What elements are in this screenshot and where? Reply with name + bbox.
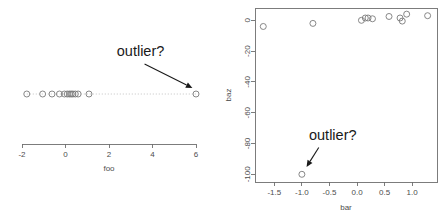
- x-tick-label: -0.5: [323, 188, 337, 197]
- x-tick-label: 0: [63, 150, 68, 159]
- y-tick-label: -100: [243, 166, 252, 183]
- x-tick-label: -2: [18, 150, 26, 159]
- data-point: [260, 23, 266, 29]
- y-tick-label: -40: [243, 76, 252, 88]
- data-point: [193, 91, 199, 97]
- right-x-ticks: [274, 182, 412, 186]
- figure-root: -20246 foo outlier? -1.5-1.0-0.50.00.51.…: [0, 0, 446, 224]
- left-outlier-annotation: outlier?: [117, 43, 193, 88]
- right-plot-frame: [255, 8, 437, 182]
- right-x-axis-title: bar: [340, 203, 352, 212]
- y-tick-label: 0: [243, 18, 252, 23]
- x-tick-label: -1.5: [267, 188, 281, 197]
- right-annotation-arrow: [310, 147, 319, 161]
- right-x-tick-labels: -1.5-1.0-0.50.00.51.0: [267, 188, 418, 197]
- left-x-ticks: [22, 144, 196, 148]
- plot-panel-right: -1.5-1.0-0.50.00.51.0 0-20-40-60-80-100 …: [223, 0, 446, 224]
- left-x-tick-labels: -20246: [18, 150, 198, 159]
- left-annotation-label: outlier?: [117, 43, 165, 59]
- data-point: [386, 13, 392, 19]
- right-plot-svg: -1.5-1.0-0.50.00.51.0 0-20-40-60-80-100 …: [223, 0, 446, 224]
- right-annotation-label: outlier?: [309, 127, 357, 143]
- right-y-tick-labels: 0-20-40-60-80-100: [243, 18, 252, 183]
- plot-panel-left: -20246 foo outlier?: [0, 0, 223, 224]
- x-tick-label: 6: [194, 150, 199, 159]
- data-point: [425, 13, 431, 19]
- data-point: [310, 20, 316, 26]
- data-point: [299, 171, 305, 177]
- left-plot-svg: -20246 foo outlier?: [0, 0, 223, 224]
- right-data-points: [260, 11, 430, 177]
- right-annotation-arrowhead: [307, 160, 313, 167]
- x-tick-label: 4: [150, 150, 155, 159]
- x-tick-label: -1.0: [295, 188, 309, 197]
- y-tick-label: -60: [243, 106, 252, 118]
- left-x-axis-title: foo: [103, 164, 115, 173]
- y-tick-label: -20: [243, 45, 252, 57]
- right-y-axis-title: baz: [224, 89, 233, 102]
- x-tick-label: 0.0: [351, 188, 363, 197]
- x-tick-label: 1.0: [407, 188, 419, 197]
- y-tick-label: -80: [243, 137, 252, 149]
- right-outlier-annotation: outlier?: [307, 127, 357, 166]
- left-x-axis: -20246: [18, 144, 198, 159]
- right-x-axis: -1.5-1.0-0.50.00.51.0: [267, 182, 418, 197]
- data-point: [369, 16, 375, 22]
- right-y-axis: 0-20-40-60-80-100: [243, 18, 255, 183]
- x-tick-label: 2: [107, 150, 112, 159]
- x-tick-label: 0.5: [379, 188, 391, 197]
- right-y-ticks: [251, 20, 255, 174]
- data-point: [404, 11, 410, 17]
- left-annotation-arrow: [145, 64, 187, 85]
